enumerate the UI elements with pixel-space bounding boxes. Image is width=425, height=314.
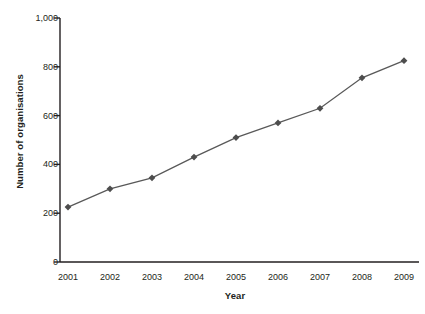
data-point-marker (107, 185, 114, 192)
x-axis-title: Year (60, 290, 410, 301)
data-point-marker (275, 120, 282, 127)
data-point-marker (191, 154, 198, 161)
line-chart: Number of organisations 02004006008001,0… (0, 0, 425, 314)
data-point-marker (401, 57, 408, 64)
data-point-marker (149, 174, 156, 181)
data-point-marker (65, 204, 72, 211)
plot-area (0, 0, 425, 314)
data-point-marker (233, 134, 240, 141)
data-line (68, 61, 404, 207)
